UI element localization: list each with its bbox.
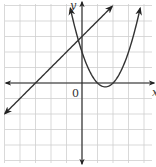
origin-label: 0 (72, 87, 79, 100)
x-axis-label: x (152, 86, 156, 99)
parabola-curve (70, 8, 140, 86)
graph: y x 0 (0, 0, 156, 167)
line-curve (5, 6, 112, 113)
y-axis-label: y (69, 0, 77, 12)
axes (6, 2, 154, 164)
